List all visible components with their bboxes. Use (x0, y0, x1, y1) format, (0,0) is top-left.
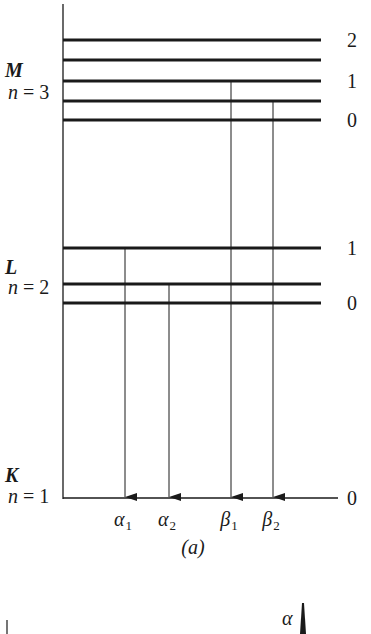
alpha-peak-label: α (282, 607, 293, 629)
level-label: 1 (347, 237, 357, 259)
shell-labels: Mn = 3Ln = 2Kn = 1 (4, 59, 49, 507)
transition-label: β1 (219, 508, 237, 533)
shell-n-label-l: n = 2 (8, 276, 49, 298)
shell-letter-m: M (4, 59, 24, 81)
level-label: 0 (347, 487, 357, 509)
level-quantum-labels: 210100 (347, 29, 357, 509)
transition-label: α1 (114, 508, 132, 533)
shell-n-label-m: n = 3 (8, 81, 49, 103)
shell-letter-k: K (4, 464, 20, 486)
transition-labels: α1α2β1β2 (114, 508, 280, 533)
transition-arrows (125, 81, 273, 497)
level-label: 0 (347, 292, 357, 314)
level-label: 1 (347, 70, 357, 92)
transition-label: β2 (261, 508, 279, 533)
level-label: 0 (347, 109, 357, 131)
figure-caption: (a) (181, 536, 205, 559)
shell-n-label-k: n = 1 (8, 485, 49, 507)
level-label: 2 (347, 29, 357, 51)
energy-level-diagram: Mn = 3Ln = 2Kn = 1 210100 α1α2β1β2 (a) α (0, 0, 371, 634)
shell-letter-l: L (4, 256, 17, 278)
transition-label: α2 (158, 508, 176, 533)
alpha-peak (300, 603, 306, 634)
energy-levels (63, 40, 338, 498)
spectrum-panel-top: α (7, 603, 306, 634)
